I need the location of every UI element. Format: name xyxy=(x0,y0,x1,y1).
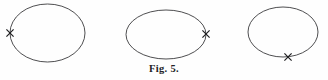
ellipse-outline-1 xyxy=(10,4,85,62)
figure-caption: Fig. 5. xyxy=(0,63,328,74)
ellipse-outline-2 xyxy=(126,10,206,59)
ellipse-bottom-marked xyxy=(248,7,318,61)
ellipse-outline-3 xyxy=(248,7,318,57)
ellipse-left-marked xyxy=(6,4,85,62)
ellipse-right-marked xyxy=(126,10,210,59)
figure-container: Fig. 5. xyxy=(0,0,328,80)
